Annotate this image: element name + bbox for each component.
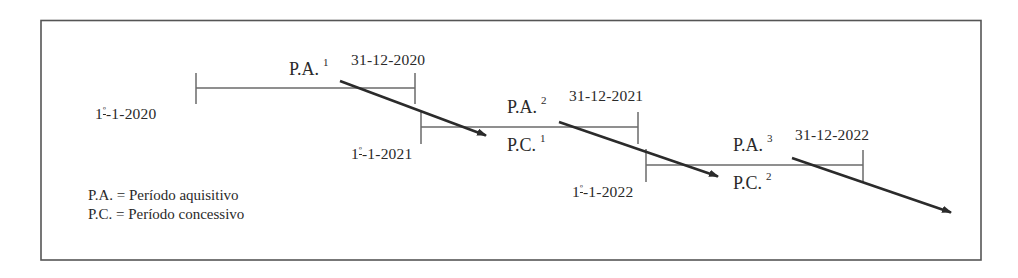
- period-label-pa3: P.A.3: [733, 136, 773, 154]
- arrow-pa3-to-next-icon: [792, 158, 951, 213]
- end-date-2022: 31-12-2022: [795, 127, 869, 143]
- period-index: 1: [323, 56, 329, 68]
- end-date-2021: 31-12-2021: [569, 88, 643, 104]
- date-rest: -1-2022: [583, 183, 633, 200]
- day: 1: [351, 145, 359, 162]
- period-index: 1: [540, 132, 546, 144]
- day: 1: [95, 105, 103, 122]
- period-abbr: P.A.: [289, 59, 319, 79]
- period-label-pa2: P.A.2: [507, 98, 547, 116]
- legend: P.A. = Período aquisitivo P.C. = Período…: [88, 186, 244, 224]
- period-abbr: P.A.: [507, 97, 537, 117]
- start-date-2021: 1º-1-2021: [351, 146, 412, 162]
- period-index: 2: [766, 170, 772, 182]
- period-abbr: P.A.: [733, 135, 763, 155]
- vacation-period-diagram: 1º-1-2020 1º-1-2021 1º-1-2022 31-12-2020…: [0, 0, 1018, 278]
- arrow-pa1-to-pc1-icon: [340, 81, 486, 136]
- period-label-pc2: P.C.2: [733, 174, 772, 192]
- period-label-pa1: P.A.1: [289, 60, 329, 78]
- period-index: 2: [541, 94, 547, 106]
- start-date-2022: 1º-1-2022: [572, 184, 633, 200]
- end-date-2020: 31-12-2020: [351, 52, 425, 68]
- start-date-2020: 1º-1-2020: [95, 106, 156, 122]
- period-label-pc1: P.C.1: [507, 136, 546, 154]
- period-abbr: P.C.: [507, 135, 536, 155]
- legend-item-pc: P.C. = Período concessivo: [88, 205, 244, 224]
- period-index: 3: [767, 132, 773, 144]
- period-abbr: P.C.: [733, 173, 762, 193]
- legend-item-pa: P.A. = Período aquisitivo: [88, 186, 244, 205]
- date-rest: -1-2020: [106, 105, 156, 122]
- day: 1: [572, 183, 580, 200]
- date-rest: -1-2021: [362, 145, 412, 162]
